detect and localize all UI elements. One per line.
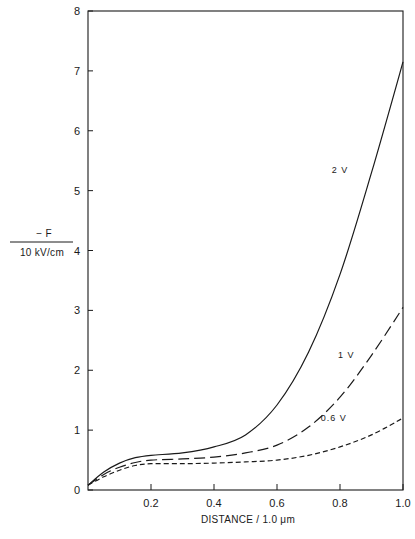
series-line-1-v (88, 307, 403, 485)
x-tick-label: 0.4 (206, 497, 221, 509)
y-axis-title-denominator: 10 kV/cm (20, 247, 64, 258)
series-line-0-6-v (88, 418, 403, 485)
series-layer (88, 62, 403, 485)
y-tick-label: 4 (74, 245, 80, 257)
y-tick-label: 1 (74, 424, 80, 436)
series-label: 2 V (332, 165, 349, 175)
plot-border (88, 11, 403, 490)
series-labels: 2 V1 V0.6 V (321, 165, 355, 423)
line-chart: 012345678 0.20.40.60.81.0 2 V1 V0.6 V DI… (0, 0, 415, 539)
y-axis-title-numerator: − F (36, 228, 52, 239)
y-axis-ticks: 012345678 (74, 5, 93, 496)
x-tick-label: 0.8 (332, 497, 347, 509)
y-tick-label: 6 (74, 125, 80, 137)
series-label: 0.6 V (321, 413, 347, 423)
y-axis-title: − F 10 kV/cm (10, 228, 73, 258)
x-tick-label: 0.6 (269, 497, 284, 509)
y-tick-label: 2 (74, 364, 80, 376)
x-tick-label: 1.0 (395, 497, 410, 509)
y-tick-label: 7 (74, 65, 80, 77)
x-axis-ticks: 0.20.40.60.81.0 (143, 484, 410, 509)
x-axis-title: DISTANCE / 1.0 μm (201, 514, 295, 525)
x-tick-label: 0.2 (143, 497, 158, 509)
y-tick-label: 3 (74, 304, 80, 316)
series-line-2-v (88, 62, 403, 485)
y-tick-label: 0 (74, 484, 80, 496)
plot-frame (88, 11, 403, 490)
series-label: 1 V (338, 350, 355, 360)
y-tick-label: 8 (74, 5, 80, 17)
y-tick-label: 5 (74, 185, 80, 197)
